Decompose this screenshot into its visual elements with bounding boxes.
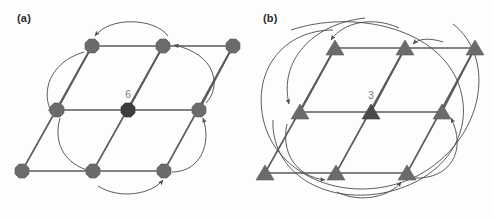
panel-b-center-order-label: 3 [368,90,374,101]
arc-bottom-left [286,124,325,180]
node-top-mid[interactable] [156,39,170,53]
panel-a: (a) [0,0,247,220]
panel-a-center-order-label: 6 [125,89,131,100]
node-mid-right[interactable] [192,103,206,117]
node-bot-mid[interactable] [86,164,100,178]
edge-diag-short-2 [371,48,405,112]
arc-left-outer [287,18,365,104]
panel-b-graph: 3 [247,0,494,220]
node-top-right[interactable] [226,39,240,53]
node-center[interactable] [121,103,135,117]
edge-diag-short-3 [199,46,233,110]
edge-diag-short-2 [128,46,163,110]
node-bot-right[interactable] [157,164,171,178]
edge-diag-short-3 [442,48,475,112]
arc-top [95,22,168,36]
panel-a-nodes [15,39,240,178]
panel-b: (b) [247,0,494,220]
node-bot-left[interactable] [15,164,29,178]
arc-bottom-inner [337,182,401,198]
edge-diag-short-1 [300,48,335,112]
figure-container: (a) [0,0,494,220]
panel-b-nodes [256,40,484,180]
arc-top-inner [413,39,443,44]
arc-upper-left [47,52,84,113]
arc-top-outer [331,22,399,40]
arc-bottom [98,180,163,194]
panel-a-graph: 6 [0,0,247,220]
node-mid-left[interactable] [50,103,64,117]
node-top-left[interactable] [85,39,99,53]
